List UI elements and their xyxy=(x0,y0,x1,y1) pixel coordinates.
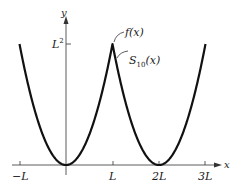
annotation-leader-s10 xyxy=(117,51,128,58)
function-curve xyxy=(20,44,206,165)
y-axis-label: y xyxy=(60,7,67,18)
x-tick-label-3l: 3L xyxy=(198,170,212,183)
x-tick-label-l: L xyxy=(108,170,116,183)
x-tick-label-2l: 2L xyxy=(151,170,166,183)
annotation-leader-f xyxy=(114,32,124,42)
x-axis-arrow-icon xyxy=(214,163,222,168)
annotation-s10: S10(x) xyxy=(129,54,160,69)
x-axis-label: x xyxy=(224,159,230,170)
x-tick-label-neg-l: −L xyxy=(12,170,29,183)
annotation-f: f(x) xyxy=(124,26,144,39)
fourier-series-plot: y x L2 −L L 2L 3L f(x) S10(x) xyxy=(0,0,235,189)
axes xyxy=(12,22,216,175)
y-tick-label-l2: L2 xyxy=(51,37,64,51)
